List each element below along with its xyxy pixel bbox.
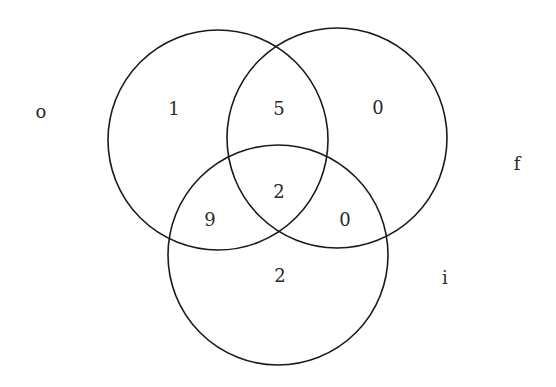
set-circle-o — [108, 30, 328, 250]
region-values: 1502902 — [168, 97, 383, 286]
set-label-o: o — [36, 101, 47, 122]
region-value-o-f-i: 2 — [273, 181, 284, 202]
region-value-f-i: 0 — [339, 209, 350, 230]
region-value-o-f: 5 — [273, 98, 284, 119]
region-value-o-only: 1 — [168, 98, 179, 119]
venn-diagram: ofi 1502902 — [0, 0, 556, 387]
set-label-f: f — [514, 153, 522, 174]
set-label-i: i — [442, 267, 448, 288]
region-value-f-only: 0 — [372, 97, 383, 118]
region-value-o-i: 9 — [204, 209, 215, 230]
venn-svg: ofi 1502902 — [0, 0, 556, 387]
region-value-i-only: 2 — [274, 265, 285, 286]
set-circle-f — [227, 28, 447, 248]
set-circle-i — [168, 145, 388, 365]
